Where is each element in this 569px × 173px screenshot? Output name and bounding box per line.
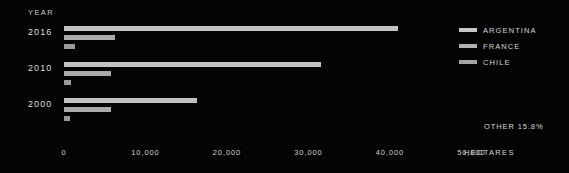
y-axis-title: YEAR — [28, 8, 54, 17]
bar-france-2000 — [64, 107, 111, 112]
x-axis-tick-label: 30,000 — [294, 148, 322, 157]
legend-item-argentina[interactable]: ARGENTINA — [459, 26, 537, 34]
bar-france-2016 — [64, 35, 115, 40]
x-axis: HECTARES 010,00020,00030,00040,00050,000 — [0, 148, 569, 162]
bar-chile-2010 — [64, 80, 71, 85]
legend-item-chile[interactable]: CHILE — [459, 58, 537, 66]
chart-screenshot: YEAR 201620102000 HECTARES 010,00020,000… — [0, 0, 569, 173]
x-axis-tick-label: 0 — [61, 148, 66, 157]
legend: ARGENTINAFRANCECHILE — [459, 26, 537, 66]
legend-swatch-icon — [459, 44, 477, 48]
y-axis-tick-label: 2010 — [28, 63, 52, 73]
x-axis-tick-label: 10,000 — [131, 148, 159, 157]
plot-area — [64, 22, 504, 130]
bar-group — [64, 62, 504, 89]
bar-argentina-2000 — [64, 98, 197, 103]
bar-argentina-2010 — [64, 62, 321, 67]
bar-group — [64, 26, 504, 53]
x-axis-tick-label: 40,000 — [376, 148, 404, 157]
legend-item-label: CHILE — [483, 58, 511, 67]
legend-item-label: FRANCE — [483, 42, 520, 51]
y-axis-tick-label: 2016 — [28, 27, 52, 37]
legend-swatch-icon — [459, 60, 477, 64]
x-axis-tick-label: 50,000 — [457, 148, 485, 157]
bar-chile-2000 — [64, 116, 70, 121]
legend-swatch-icon — [459, 28, 477, 32]
legend-item-france[interactable]: FRANCE — [459, 42, 537, 50]
bar-argentina-2016 — [64, 26, 398, 31]
bar-chile-2016 — [64, 44, 75, 49]
other-share-annotation: OTHER 15.8% — [484, 122, 544, 131]
bar-group — [64, 98, 504, 125]
legend-item-label: ARGENTINA — [483, 26, 537, 35]
bar-france-2010 — [64, 71, 111, 76]
x-axis-tick-label: 20,000 — [213, 148, 241, 157]
y-axis-tick-label: 2000 — [28, 99, 52, 109]
